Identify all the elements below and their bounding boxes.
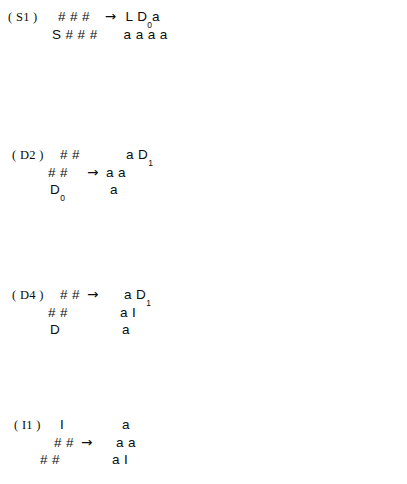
rule-r1: ( R1 )R# ## # # → aa aa a R (0, 400, 204, 465)
rule-s1: ( S1 )# # #S # # #→ L D0aa a a a (0, 0, 204, 70)
lhs-s1: # # #S # # # (52, 8, 98, 43)
lhs-row: # # # (52, 8, 98, 26)
arrow-column-s1: → (98, 8, 124, 43)
rhs-s1: L D0aa a a a (124, 8, 168, 43)
rule-body-s1: # # #S # # #→ L D0aa a a a (52, 8, 168, 43)
rule-d1: ( D1 )# ## #D0 → I Da aa (204, 0, 407, 70)
rule-d5: ( D5 )# # # # ## # # #D1 → a a a a aa a … (204, 140, 407, 205)
lhs-row: S # # # (52, 26, 98, 44)
arrow-spacer (98, 26, 124, 44)
rule-label-s1: ( S1 ) (8, 10, 38, 25)
rule-d2: ( D2 )# ## #D0 → a D1a aa (0, 70, 204, 140)
rule-d3: ( D3 )# ## #D → I Da Ia (204, 70, 407, 140)
rule-i4: ( I4 )# ## #I → a aa aa (204, 270, 407, 335)
rhs-row: a a a a (124, 26, 168, 44)
rhs-row: L D0a (124, 8, 168, 26)
rule-i1: ( I1 )I# ## # → aa aa I (0, 205, 204, 270)
rule-d4: ( D4 )# ## #D→ a D1a Ia (0, 140, 204, 205)
rule-l1: ( L1 )# ##L → L aaa (0, 335, 204, 400)
rules-figure: ( S1 )# # #S # # #→ L D0aa a a a( D1 )# … (0, 0, 407, 484)
rule-l2: ( L2 )## #L → aa aa (204, 335, 407, 400)
rewrite-arrow-icon: → (98, 8, 124, 26)
rule-i3: ( I3 )# ## #I → I aa aa (0, 270, 204, 335)
rule-i2: ( I2 )I# ## # → aa aa a (204, 205, 407, 270)
rule-r2: ( R2 )R# # ## # → aa a aa a (204, 400, 407, 465)
